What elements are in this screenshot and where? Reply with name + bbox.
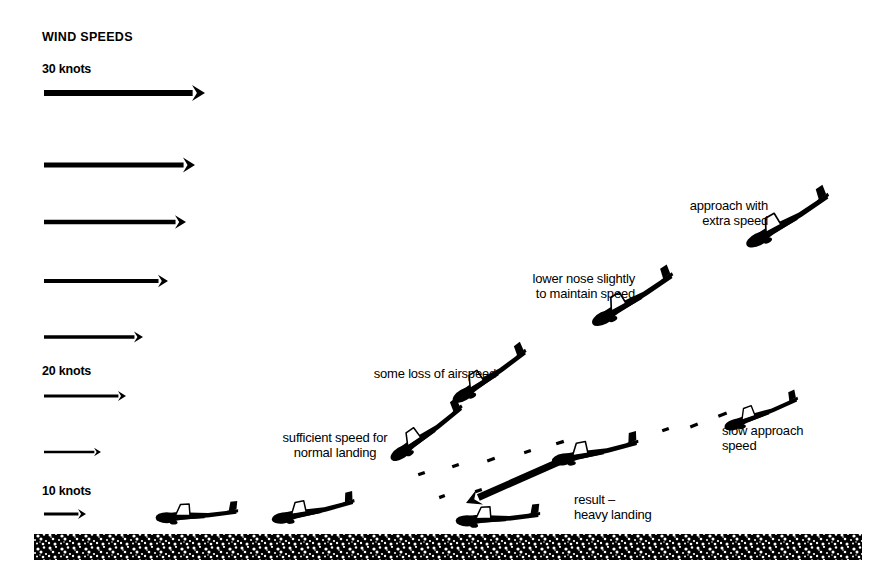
some-loss-of-airspeed-line-1: some loss of airspeed bbox=[344, 366, 496, 381]
result-heavy-landing: result –heavy landing bbox=[574, 492, 694, 522]
wind-speed-label-10-knots: 10 knots bbox=[42, 484, 91, 499]
sufficient-speed-for-normal-landing-line-2: normal landing bbox=[266, 445, 404, 460]
descent-dash-1 bbox=[690, 423, 699, 429]
slow-approach-speed: slow approachspeed bbox=[722, 423, 842, 453]
wind-arrows bbox=[44, 85, 205, 519]
wind-speed-label-30-knots: 30 knots bbox=[42, 62, 91, 77]
approach-with-extra-speed: approach withextra speed bbox=[648, 198, 768, 228]
arrow-20-knots bbox=[44, 391, 126, 401]
lower-nose-slightly-line-1: lower nose slightly bbox=[487, 271, 635, 286]
descent-dash-0 bbox=[718, 411, 728, 417]
arrow-3 bbox=[44, 215, 186, 229]
descent-dash-7 bbox=[418, 471, 426, 476]
lower-nose-slightly: lower nose slightlyto maintain speed bbox=[487, 271, 635, 301]
glider-landed-left bbox=[156, 501, 239, 525]
approach-with-extra-speed-line-1: approach with bbox=[648, 198, 768, 213]
arrow-4 bbox=[44, 275, 168, 287]
descent-dash-3 bbox=[556, 440, 565, 446]
some-loss-of-airspeed: some loss of airspeed bbox=[344, 366, 496, 381]
ground-strip bbox=[34, 534, 862, 560]
sufficient-speed-for-normal-landing: sufficient speed fornormal landing bbox=[266, 430, 404, 460]
descent-dash-2 bbox=[662, 427, 670, 432]
descent-dash-4 bbox=[524, 449, 532, 454]
sufficient-speed-for-normal-landing-line-1: sufficient speed for bbox=[266, 430, 404, 445]
descent-dash-6 bbox=[452, 463, 460, 468]
descent-dash-9 bbox=[439, 494, 446, 499]
slow-approach-speed-line-2: speed bbox=[722, 438, 842, 453]
arrow-30-knots bbox=[44, 85, 205, 101]
arrow-10-knots bbox=[44, 509, 86, 519]
glider-silhouettes bbox=[156, 184, 836, 528]
result-heavy-landing-line-1: result – bbox=[574, 492, 694, 507]
page-title: WIND SPEEDS bbox=[42, 30, 133, 45]
descent-dash-5 bbox=[487, 457, 496, 463]
result-heavy-landing-line-2: heavy landing bbox=[574, 507, 694, 522]
arrow-5 bbox=[44, 331, 143, 342]
glider-heavy-landing-ground bbox=[456, 504, 540, 528]
arrow-2 bbox=[44, 158, 195, 173]
wind-gradient-approach-diagram: WIND SPEEDS 30 knots20 knots10 knots app… bbox=[0, 0, 876, 584]
glider-heavy-landing-path bbox=[549, 431, 640, 468]
approach-with-extra-speed-line-2: extra speed bbox=[648, 213, 768, 228]
arrow-7 bbox=[44, 448, 101, 457]
heavy-landing-arrow bbox=[466, 457, 570, 504]
diagram-graphics bbox=[0, 0, 876, 584]
lower-nose-slightly-line-2: to maintain speed bbox=[487, 286, 635, 301]
slow-approach-speed-line-1: slow approach bbox=[722, 423, 842, 438]
wind-speed-label-20-knots: 20 knots bbox=[42, 364, 91, 379]
glider-landed-flare bbox=[269, 491, 356, 527]
